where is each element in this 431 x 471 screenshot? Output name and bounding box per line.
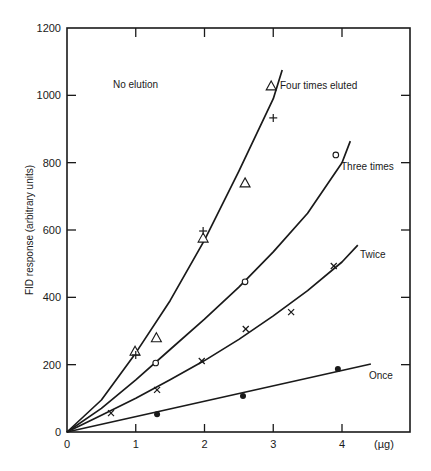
curve-twice [67, 245, 358, 432]
y-tick-label: 800 [43, 157, 61, 169]
label-no-elution: No elution [113, 79, 158, 90]
data-markers [108, 81, 341, 417]
y-tick-label: 0 [55, 426, 61, 438]
marker-circle-filled-icon [335, 366, 341, 372]
marker-x-icon [288, 309, 294, 315]
label-twice: Twice [360, 249, 386, 260]
x-tick-label: 1 [133, 438, 139, 450]
marker-circle-open-icon [242, 279, 248, 285]
marker-plus-icon [269, 114, 277, 122]
marker-x-icon [243, 326, 249, 332]
y-tick-label: 1200 [37, 22, 61, 34]
chart: 01234020040060080010001200 FID response … [0, 0, 431, 471]
label-once: Once [369, 370, 393, 381]
marker-triangle-icon [151, 333, 161, 342]
label-four-times-eluted: Four times eluted [280, 80, 357, 91]
marker-triangle-icon [266, 81, 276, 90]
y-tick-label: 1000 [37, 89, 61, 101]
x-tick-label: 2 [201, 438, 207, 450]
marker-circle-open-icon [153, 360, 159, 366]
marker-plus-icon [199, 227, 207, 235]
marker-x-icon [154, 387, 160, 393]
y-tick-label: 600 [43, 224, 61, 236]
x-tick-label: 0 [64, 438, 70, 450]
marker-circle-filled-icon [240, 393, 246, 399]
x-tick-label: 4 [339, 438, 345, 450]
fit-curves [67, 70, 371, 432]
marker-triangle-icon [240, 178, 250, 187]
x-axis-unit-label: (µg) [374, 438, 394, 450]
marker-circle-open-icon [333, 152, 339, 158]
y-tick-label: 200 [43, 359, 61, 371]
y-axis-title: FID response (arbitrary units) [24, 165, 35, 295]
y-tick-label: 400 [43, 291, 61, 303]
marker-circle-filled-icon [154, 411, 160, 417]
label-three-times: Three times [341, 161, 394, 172]
x-tick-label: 3 [270, 438, 276, 450]
